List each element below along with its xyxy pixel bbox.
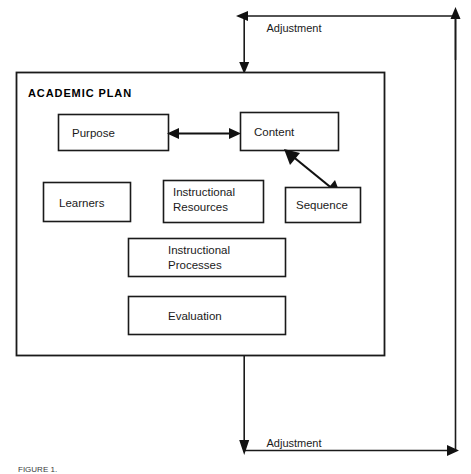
- top-adjustment-label: Adjustment: [266, 22, 321, 34]
- instructional-resources-label-line2: Resources: [173, 201, 228, 213]
- node-sequence[interactable]: Sequence: [286, 188, 361, 223]
- bottom-right-arrowhead-icon: [447, 445, 459, 456]
- node-instructional-resources[interactable]: Instructional Resources: [164, 181, 264, 223]
- sequence-label: Sequence: [296, 199, 348, 211]
- bottom-down-arrowhead-icon: [239, 440, 249, 455]
- bottom-adjustment-label: Adjustment: [266, 437, 321, 449]
- purpose-label: Purpose: [72, 127, 115, 139]
- node-evaluation[interactable]: Evaluation: [129, 297, 286, 335]
- evaluation-label: Evaluation: [168, 310, 222, 322]
- node-content[interactable]: Content: [241, 113, 339, 151]
- figure-root: Adjustment ACADEMIC PLAN Purpose Content: [0, 0, 471, 474]
- instructional-processes-label-line2: Processes: [168, 259, 222, 271]
- learners-label: Learners: [59, 197, 105, 209]
- top-right-arrowhead-icon: [451, 7, 461, 19]
- content-label: Content: [254, 126, 295, 138]
- instructional-processes-label-line1: Instructional: [168, 244, 230, 256]
- node-learners[interactable]: Learners: [44, 183, 131, 222]
- academic-plan-diagram: Adjustment ACADEMIC PLAN Purpose Content: [0, 0, 471, 474]
- top-adjustment-flow: Adjustment: [236, 7, 461, 74]
- node-purpose[interactable]: Purpose: [59, 115, 169, 151]
- academic-plan-title: ACADEMIC PLAN: [28, 87, 132, 99]
- top-left-arrowhead-icon: [236, 11, 248, 21]
- figure-caption: FIGURE 1.: [18, 465, 57, 474]
- node-instructional-processes[interactable]: Instructional Processes: [129, 239, 286, 277]
- instructional-resources-label-line1: Instructional: [173, 186, 235, 198]
